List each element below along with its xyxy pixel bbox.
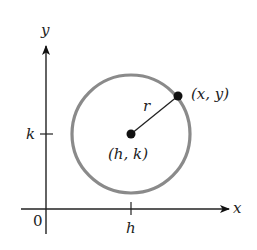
origin-label: 0 <box>33 212 43 230</box>
radius-segment <box>131 96 178 134</box>
radius-label: r <box>143 97 151 115</box>
center-point <box>127 130 136 139</box>
circle-diagram: y x 0 h k (h, k) (x, y) r <box>0 0 257 250</box>
point-label: (x, y) <box>191 85 229 103</box>
circle-point <box>174 92 183 101</box>
y-tick-label: k <box>26 125 35 143</box>
y-axis-label: y <box>40 21 50 39</box>
x-tick-label: h <box>126 219 136 237</box>
x-axis-label: x <box>233 199 242 217</box>
center-label: (h, k) <box>108 145 148 163</box>
